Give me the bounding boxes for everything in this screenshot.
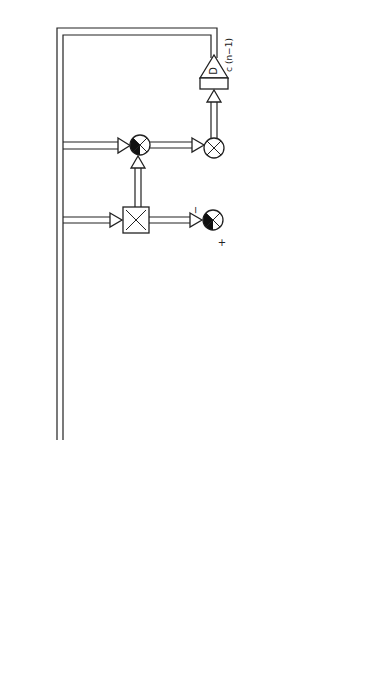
block-diagram-main [0, 0, 389, 691]
